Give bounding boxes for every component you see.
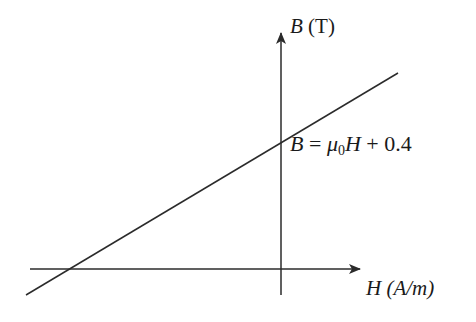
bh-line bbox=[26, 73, 398, 295]
h-axis-symbol: H bbox=[366, 276, 381, 300]
eq-plus: + bbox=[366, 131, 378, 156]
h-axis-label: H (A/m) bbox=[366, 276, 434, 301]
eq-coef-sub: 0 bbox=[338, 143, 345, 158]
eq-intercept: 0.4 bbox=[384, 131, 412, 156]
b-axis-label: B (T) bbox=[290, 14, 335, 39]
b-axis-symbol: B bbox=[290, 14, 303, 38]
diagram-canvas bbox=[0, 0, 476, 322]
eq-lhs: B bbox=[290, 131, 303, 156]
h-axis-unit: (A/m) bbox=[386, 276, 434, 300]
eq-coef: μ bbox=[327, 131, 338, 156]
eq-var: H bbox=[345, 131, 361, 156]
eq-equals: = bbox=[309, 131, 321, 156]
b-axis-unit: (T) bbox=[308, 14, 335, 38]
equation-label: B = μ0H + 0.4 bbox=[290, 131, 412, 159]
